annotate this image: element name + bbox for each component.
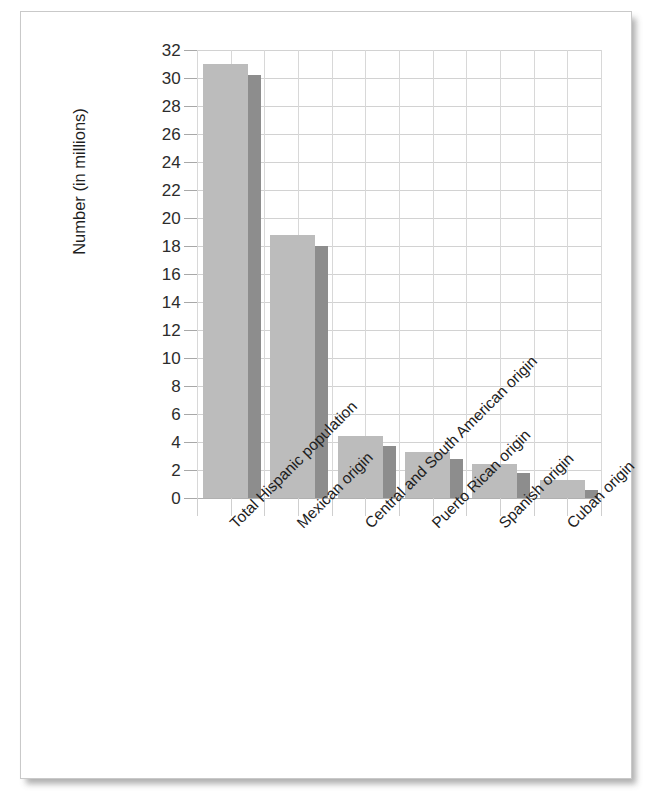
category-label: Total Hispanic population (227, 398, 360, 531)
bar-chart: Number (in millions) 3230282624222018161… (21, 12, 633, 780)
category-label: Cuban origin (564, 458, 637, 531)
x-axis-category-labels: Total Hispanic populationMexican originC… (21, 12, 633, 780)
scanned-page: Number (in millions) 3230282624222018161… (0, 0, 658, 812)
chart-paper-frame: Number (in millions) 3230282624222018161… (20, 11, 632, 779)
